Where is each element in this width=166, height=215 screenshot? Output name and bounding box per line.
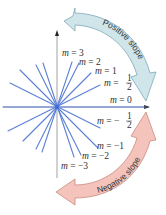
svg-text:m = −: m = − [97,116,119,126]
svg-text:2: 2 [127,82,132,92]
label-mneg1: m = −1 [97,141,124,151]
label-mneg2: m = −2 [82,151,109,161]
line-mneg1 [20,70,98,148]
label-mneghalf: m = − 1 2 [97,111,132,130]
line-mneg3 [43,63,74,157]
svg-text:2: 2 [127,120,132,130]
y-axis-arrowhead-icon [55,30,59,36]
slope-lines [3,62,146,157]
slope-labels: m = 3 m = 2 m = 1 m = 1 2 m = 0 m = − 1 … [61,48,132,171]
label-mneg3: m = −3 [61,161,88,171]
slope-diagram: Positive slope Negative slope m = 3 m = … [0,0,166,215]
origin-point [55,105,59,109]
svg-text:m =: m = [104,78,119,88]
line-mhalf [8,85,100,131]
label-m1: m = 1 [95,66,117,76]
positive-slope-label: Positive slope [101,17,146,61]
label-m0: m = 0 [110,95,132,105]
